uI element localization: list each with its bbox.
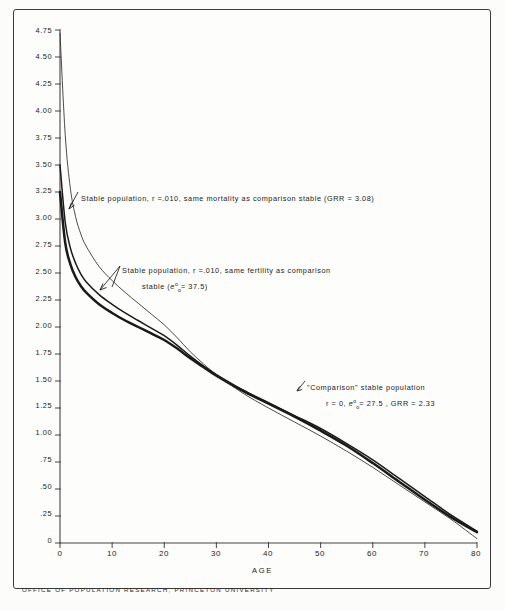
chart-plot-area	[0, 0, 505, 611]
curve-same-mortality	[60, 192, 477, 532]
leader-line-comparison-arrow	[297, 387, 302, 392]
annotation-leader-lines	[69, 192, 305, 391]
leader-line-fertility	[100, 266, 120, 290]
figure-container: 4.75 4.50 4.25 4.00 3.75 3.50 3.25 3.00 …	[0, 0, 505, 611]
axes-group	[60, 30, 477, 543]
data-curves-group	[60, 33, 477, 538]
curve-comparison	[60, 33, 477, 538]
curve-same-fertility	[60, 165, 477, 531]
